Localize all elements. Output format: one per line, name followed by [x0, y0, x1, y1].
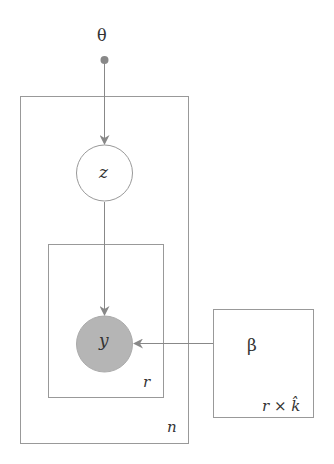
plate-n-label: n: [167, 418, 177, 436]
theta-label: θ: [97, 26, 107, 45]
theta-dot: [101, 56, 109, 64]
plate-diagram: [0, 0, 334, 464]
z-label: z: [99, 162, 108, 182]
y-label: y: [99, 330, 109, 350]
plate-beta-label: r × k̂: [262, 397, 300, 415]
beta-label: β: [247, 335, 257, 355]
plate-r-label: r: [143, 373, 150, 391]
